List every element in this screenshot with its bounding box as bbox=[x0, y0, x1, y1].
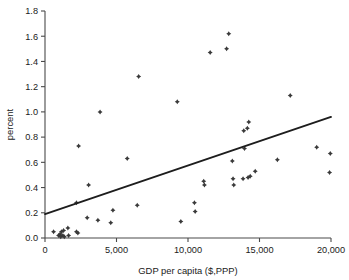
data-point bbox=[136, 74, 141, 79]
x-axis-ticks: 05,00010,00015,00020,000 bbox=[42, 238, 345, 255]
data-point bbox=[288, 93, 293, 98]
y-tick-label: 1.0 bbox=[25, 107, 38, 117]
x-tick-label: 20,000 bbox=[317, 245, 345, 255]
data-point bbox=[231, 176, 236, 181]
data-point bbox=[192, 200, 197, 205]
data-point bbox=[241, 176, 246, 181]
y-tick-label: 0.2 bbox=[25, 208, 38, 218]
data-point bbox=[224, 46, 229, 51]
y-tick-label: 1.2 bbox=[25, 82, 38, 92]
data-point bbox=[65, 225, 70, 230]
y-tick-label: 1.4 bbox=[25, 57, 38, 67]
data-point bbox=[178, 219, 183, 224]
data-point bbox=[231, 183, 236, 188]
data-point bbox=[246, 119, 251, 124]
data-point bbox=[135, 203, 140, 208]
data-point bbox=[328, 151, 333, 156]
data-point bbox=[66, 233, 71, 238]
scatter-chart: 0.00.20.40.60.81.01.21.41.61.8 05,00010,… bbox=[0, 0, 349, 280]
y-tick-label: 0.8 bbox=[25, 132, 38, 142]
data-point bbox=[85, 215, 90, 220]
x-tick-label: 0 bbox=[42, 245, 47, 255]
data-point bbox=[208, 50, 213, 55]
data-point bbox=[275, 157, 280, 162]
data-point bbox=[108, 220, 113, 225]
chart-plot-area: 0.00.20.40.60.81.01.21.41.61.8 05,00010,… bbox=[0, 0, 349, 280]
data-point bbox=[98, 109, 103, 114]
x-tick-label: 15,000 bbox=[245, 245, 273, 255]
y-tick-label: 0.0 bbox=[25, 233, 38, 243]
data-point bbox=[327, 170, 332, 175]
data-points bbox=[51, 31, 333, 239]
data-point bbox=[241, 128, 246, 133]
data-point bbox=[110, 208, 115, 213]
y-tick-label: 0.4 bbox=[25, 183, 38, 193]
y-axis-ticks: 0.00.20.40.60.81.01.21.41.61.8 bbox=[25, 6, 45, 243]
y-tick-label: 0.6 bbox=[25, 158, 38, 168]
x-tick-label: 5,000 bbox=[105, 245, 128, 255]
y-tick-label: 1.8 bbox=[25, 6, 38, 16]
data-point bbox=[51, 229, 56, 234]
data-point bbox=[95, 218, 100, 223]
data-point bbox=[253, 169, 258, 174]
data-point bbox=[76, 143, 81, 148]
data-point bbox=[86, 183, 91, 188]
x-axis-label: GDP per capita ($,PPP) bbox=[138, 265, 237, 276]
data-point bbox=[226, 31, 231, 36]
x-tick-label: 10,000 bbox=[174, 245, 202, 255]
data-point bbox=[125, 156, 130, 161]
data-point bbox=[202, 183, 207, 188]
y-axis-label: percent bbox=[4, 108, 15, 140]
data-point bbox=[193, 209, 198, 214]
data-point bbox=[245, 126, 250, 131]
trend-line bbox=[45, 117, 331, 214]
data-point bbox=[314, 145, 319, 150]
data-point bbox=[230, 159, 235, 164]
data-point bbox=[201, 179, 206, 184]
data-point bbox=[175, 99, 180, 104]
y-tick-label: 1.6 bbox=[25, 32, 38, 42]
